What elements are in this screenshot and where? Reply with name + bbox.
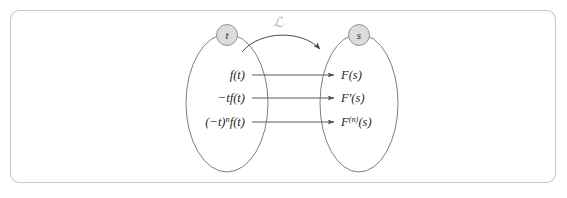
target-superscript: (n) — [349, 115, 359, 124]
laplace-operator-label: ℒ — [273, 15, 284, 30]
frequency-domain-node-label: s — [357, 29, 361, 41]
source-base: (−t) — [205, 115, 225, 129]
source-expression-label: (−t)nf(t) — [205, 115, 245, 129]
laplace-derivative-diagram: ℒ t s f(t) F(s) −tf(t) F′(s) (−t)nf(t) F… — [0, 0, 567, 198]
target-base: F — [340, 115, 349, 129]
target-expression-label: F′(s) — [340, 91, 365, 105]
target-argument: (s) — [358, 115, 371, 129]
target-expression-label: F(s) — [340, 68, 362, 82]
figure-frame — [11, 11, 556, 183]
source-suffix: f(t) — [230, 115, 245, 129]
diagram-canvas: ℒ t s f(t) F(s) −tf(t) F′(s) (−t)nf(t) F… — [0, 0, 567, 198]
source-expression-label: −tf(t) — [218, 91, 245, 105]
source-expression-label: f(t) — [230, 68, 245, 82]
